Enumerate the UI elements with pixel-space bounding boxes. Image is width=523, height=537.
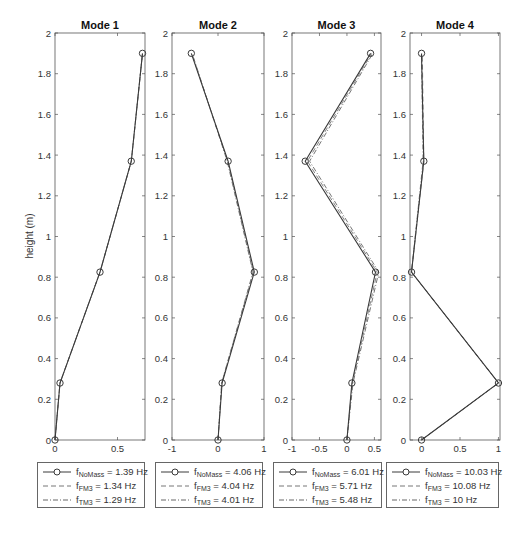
- panel-title: Mode 2: [199, 19, 237, 31]
- y-tick-label: 0: [46, 435, 51, 446]
- y-tick-label: 2: [283, 28, 288, 39]
- legend-label: fFM3 = 4.04 Hz: [194, 480, 254, 492]
- panel-title: Mode 4: [436, 19, 475, 31]
- legend-entry: fTM3 = 5.48 Hz: [278, 493, 377, 507]
- svg-text:height (m): height (m): [24, 213, 35, 258]
- y-tick-label: 1.2: [393, 190, 406, 201]
- y-tick-label: 1.8: [155, 68, 168, 79]
- legend-mode-3: fNoMass = 6.01 HzfFM3 = 5.71 HzfTM3 = 5.…: [273, 462, 382, 508]
- legend-line-solid-circle-icon: [160, 467, 190, 477]
- legend-entry: fTM3 = 4.01 Hz: [160, 493, 258, 507]
- y-tick-label: 1.4: [155, 150, 168, 161]
- legend-entry: fNoMass = 10.03 Hz: [391, 465, 494, 479]
- legend-line-dashdot-icon: [278, 495, 308, 505]
- y-tick-label: 0.8: [393, 272, 406, 283]
- legend-label: fFM3 = 5.71 Hz: [312, 480, 372, 492]
- y-tick-label: 1.8: [393, 68, 406, 79]
- y-tick-label: 1: [283, 231, 288, 242]
- legend-line-dashed-icon: [42, 481, 72, 491]
- y-tick-label: 1: [46, 231, 51, 242]
- legend-label: fTM3 = 1.29 Hz: [76, 494, 136, 506]
- y-tick-label: 1.6: [155, 109, 168, 120]
- y-tick-label: 1.6: [393, 109, 406, 120]
- legend-mode-4: fNoMass = 10.03 HzfFM3 = 10.08 HzfTM3 = …: [386, 462, 499, 508]
- legend-line-solid-circle-icon: [278, 467, 308, 477]
- legend-label: fTM3 = 4.01 Hz: [194, 494, 254, 506]
- legend-entry: fNoMass = 4.06 Hz: [160, 465, 258, 479]
- y-tick-label: 1.8: [38, 68, 51, 79]
- legend-entry: fTM3 = 10 Hz: [391, 493, 494, 507]
- legend-line-dashdot-icon: [160, 495, 190, 505]
- x-tick-label: -1: [168, 443, 176, 454]
- y-tick-label: 0.6: [393, 312, 406, 323]
- x-tick-label: 0.5: [111, 443, 124, 454]
- y-tick-label: 0.6: [275, 312, 288, 323]
- y-tick-label: 0.2: [155, 394, 168, 405]
- legend-entry: fTM3 = 1.29 Hz: [42, 493, 140, 507]
- y-tick-label: 2: [401, 28, 406, 39]
- y-tick-label: 1.2: [275, 190, 288, 201]
- legend-entry: fFM3 = 1.34 Hz: [42, 479, 140, 493]
- y-tick-label: 0: [401, 435, 406, 446]
- x-tick-label: 1: [496, 443, 501, 454]
- legend-mode-2: fNoMass = 4.06 HzfFM3 = 4.04 HzfTM3 = 4.…: [155, 462, 263, 508]
- legend-label: fFM3 = 10.08 Hz: [425, 480, 491, 492]
- y-axis-label: height (m): [24, 213, 35, 258]
- y-tick-label: 1.2: [155, 190, 168, 201]
- y-tick-label: 0.2: [38, 394, 51, 405]
- y-tick-label: 0.4: [393, 353, 406, 364]
- legend-entry: fNoMass = 1.39 Hz: [42, 465, 140, 479]
- y-tick-label: 0.8: [275, 272, 288, 283]
- y-tick-label: 0.8: [155, 272, 168, 283]
- y-tick-label: 0.4: [155, 353, 168, 364]
- y-tick-label: 0.6: [38, 312, 51, 323]
- legend-line-dashdot-icon: [42, 495, 72, 505]
- legend-label: fTM3 = 5.48 Hz: [312, 494, 372, 506]
- panel-title: Mode 3: [318, 19, 356, 31]
- figure: height (m) Mode 100.20.40.60.811.21.41.6…: [0, 0, 523, 537]
- x-tick-label: 0: [52, 443, 57, 454]
- mode-3-axes: Mode 300.20.40.60.811.21.41.61.82-1-0.50…: [275, 19, 381, 454]
- legend-entry: fFM3 = 4.04 Hz: [160, 479, 258, 493]
- y-tick-label: 1: [163, 231, 168, 242]
- y-tick-label: 0.6: [155, 312, 168, 323]
- legend-line-dashed-icon: [278, 481, 308, 491]
- y-tick-label: 1.2: [38, 190, 51, 201]
- y-tick-label: 0.4: [275, 353, 288, 364]
- y-tick-label: 1.8: [275, 68, 288, 79]
- legend-entry: fNoMass = 6.01 Hz: [278, 465, 377, 479]
- legend-line-dashed-icon: [160, 481, 190, 491]
- x-tick-label: -0.5: [311, 443, 327, 454]
- y-tick-label: 1.6: [38, 109, 51, 120]
- panel-title: Mode 1: [81, 19, 119, 31]
- y-tick-label: 1: [401, 231, 406, 242]
- mode-4-axes: Mode 400.20.40.60.811.21.41.61.8200.51: [393, 19, 502, 454]
- x-tick-label: 0.5: [368, 443, 381, 454]
- legend-line-solid-circle-icon: [42, 467, 72, 477]
- legend-label: fTM3 = 10 Hz: [425, 494, 477, 506]
- legend-label: fNoMass = 6.01 Hz: [312, 466, 384, 478]
- legend-label: fNoMass = 1.39 Hz: [76, 466, 148, 478]
- legend-label: fNoMass = 10.03 Hz: [425, 466, 502, 478]
- y-tick-label: 0.2: [275, 394, 288, 405]
- legend-entry: fFM3 = 5.71 Hz: [278, 479, 377, 493]
- x-tick-label: -1: [288, 443, 296, 454]
- legend-entry: fFM3 = 10.08 Hz: [391, 479, 494, 493]
- mode-2-axes: Mode 200.20.40.60.811.21.41.61.82-101: [155, 19, 267, 454]
- y-tick-label: 1.4: [275, 150, 288, 161]
- y-tick-label: 0.4: [38, 353, 51, 364]
- legend-line-dashdot-icon: [391, 495, 421, 505]
- x-tick-label: 0.5: [453, 443, 466, 454]
- x-tick-label: 0: [215, 443, 220, 454]
- legend-label: fFM3 = 1.34 Hz: [76, 480, 136, 492]
- y-tick-label: 2: [163, 28, 168, 39]
- legend-mode-1: fNoMass = 1.39 HzfFM3 = 1.34 HzfTM3 = 1.…: [37, 462, 145, 508]
- y-tick-label: 1.4: [38, 150, 51, 161]
- y-tick-label: 1.4: [393, 150, 406, 161]
- y-tick-label: 1.6: [275, 109, 288, 120]
- legend-label: fNoMass = 4.06 Hz: [194, 466, 266, 478]
- legend-line-dashed-icon: [391, 481, 421, 491]
- x-tick-label: 0: [344, 443, 349, 454]
- y-tick-label: 0.2: [393, 394, 406, 405]
- legend-line-solid-circle-icon: [391, 467, 421, 477]
